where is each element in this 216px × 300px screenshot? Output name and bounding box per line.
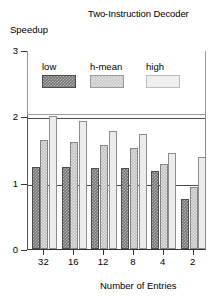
y-tick-label-1: 1 xyxy=(2,179,18,189)
y-tick-0 xyxy=(21,250,27,251)
bar-2-high xyxy=(198,157,206,249)
chart-title: Two-Instruction Decoder xyxy=(88,8,189,19)
bar-16-high xyxy=(79,121,87,249)
x-tick-label-2: 2 xyxy=(178,256,208,267)
bar-8-high xyxy=(139,134,147,249)
y-tick-label-2: 2 xyxy=(2,112,18,122)
y-axis-label: Speedup xyxy=(10,24,48,35)
bar-16-h-mean xyxy=(70,142,78,249)
bar-2-low xyxy=(181,199,189,249)
bar-12-h-mean xyxy=(100,145,108,249)
legend-swatch-h-mean xyxy=(90,75,124,88)
y-tick-label-0: 0 xyxy=(2,245,18,255)
x-tick-label-12: 12 xyxy=(88,256,118,267)
x-tick-label-8: 8 xyxy=(118,256,148,267)
y-tick-label-3: 3 xyxy=(2,46,18,56)
bar-4-low xyxy=(151,171,159,249)
chart-figure: Two-Instruction Decoder Speedup Number o… xyxy=(0,0,216,300)
bar-16-low xyxy=(62,167,70,249)
x-tick-8 xyxy=(133,250,134,255)
legend-label-h-mean: h-mean xyxy=(90,61,124,72)
x-tick-label-32: 32 xyxy=(28,256,58,267)
legend-swatch-low xyxy=(42,75,76,88)
bar-32-high xyxy=(49,116,57,249)
x-tick-4 xyxy=(163,250,164,255)
bar-2-h-mean xyxy=(190,187,198,249)
bar-32-low xyxy=(32,167,40,249)
bar-32-h-mean xyxy=(40,140,48,249)
legend-entry-high: high xyxy=(146,61,180,88)
x-tick-32 xyxy=(43,250,44,255)
legend-swatch-high xyxy=(146,75,180,88)
legend-label-high: high xyxy=(146,61,180,72)
legend-entry-low: low xyxy=(42,61,76,88)
x-tick-label-16: 16 xyxy=(58,256,88,267)
bar-4-high xyxy=(168,153,176,249)
legend-entry-h-mean: h-mean xyxy=(90,61,124,88)
x-tick-12 xyxy=(103,250,104,255)
legend: lowh-meanhigh xyxy=(27,51,206,115)
x-tick-2 xyxy=(193,250,194,255)
bar-12-low xyxy=(91,168,99,249)
bar-8-low xyxy=(121,168,129,249)
x-tick-16 xyxy=(73,250,74,255)
bar-8-h-mean xyxy=(130,148,138,249)
bar-12-high xyxy=(109,131,117,249)
x-axis-label: Number of Entries xyxy=(100,280,177,291)
bar-4-h-mean xyxy=(160,164,168,249)
legend-label-low: low xyxy=(42,61,76,72)
x-tick-label-4: 4 xyxy=(148,256,178,267)
